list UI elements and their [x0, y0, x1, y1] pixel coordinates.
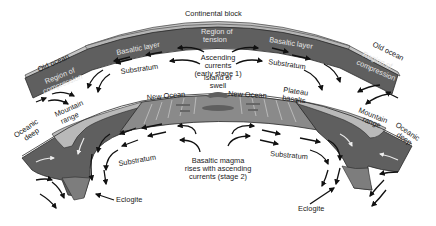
region-tension-line2: tension — [203, 35, 227, 44]
eclogite-right-slab — [342, 166, 372, 190]
magma-chamber — [202, 105, 234, 111]
substratum-right-label-stage2: Substratum — [270, 149, 308, 161]
eclogite-right-label: Eclogite — [298, 204, 324, 213]
eclogite-left-label: Eclogite — [116, 195, 142, 204]
continental-drift-diagram: Continental block Old ocean Old ocean Re… — [0, 0, 436, 226]
substratum-left-label-stage2: Substratum — [118, 153, 157, 168]
substratum-right-label-stage1: Substratum — [268, 57, 307, 71]
substratum-left-label-stage1: Substratum — [120, 62, 159, 76]
island-swell-line2: swell — [210, 81, 227, 90]
continental-block-label: Continental block — [185, 9, 242, 18]
basaltic-magma-line3: currents (stage 2) — [189, 172, 247, 181]
